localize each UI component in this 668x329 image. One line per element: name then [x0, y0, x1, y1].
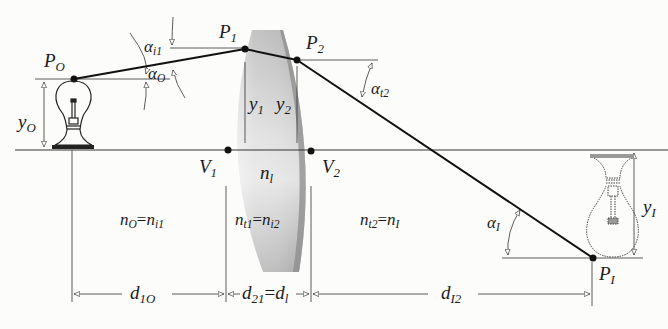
label-dI2: dI2 [441, 283, 461, 302]
point-PI [590, 255, 597, 262]
label-yI: yI [643, 197, 656, 216]
image-bulb [587, 154, 639, 257]
label-P1: P1 [219, 22, 237, 41]
point-V1 [225, 147, 232, 154]
label-alpha-O: αO [148, 65, 165, 82]
object-bulb [52, 81, 94, 149]
label-y2: y2 [276, 94, 291, 113]
label-V1: V1 [199, 157, 217, 176]
label-d1O: d1O [130, 283, 155, 302]
point-P1 [242, 46, 249, 53]
label-lens-index: nt1=ni2 [235, 211, 280, 228]
lens [237, 30, 305, 272]
point-P2 [294, 57, 301, 64]
label-image-index: nt2=nI [360, 211, 399, 228]
label-V2: V2 [322, 157, 340, 176]
point-V2 [308, 148, 315, 155]
thick-lens-diagram: PO P1 P2 PI V1 V2 αi1 αO αt2 αI yO y1 y2… [0, 0, 668, 329]
label-P2: P2 [306, 33, 324, 52]
label-alpha-i1: αi1 [144, 38, 162, 55]
label-yO: yO [18, 112, 36, 131]
label-alpha-I: αI [487, 214, 500, 231]
label-nl: nl [260, 163, 273, 182]
label-d21: d21=dl [242, 283, 288, 302]
label-object-index: nO=ni1 [120, 211, 164, 228]
label-PO: PO [44, 51, 65, 70]
label-y1: y1 [249, 94, 264, 113]
label-alpha-t2: αt2 [371, 80, 389, 97]
label-PI: PI [599, 264, 615, 283]
